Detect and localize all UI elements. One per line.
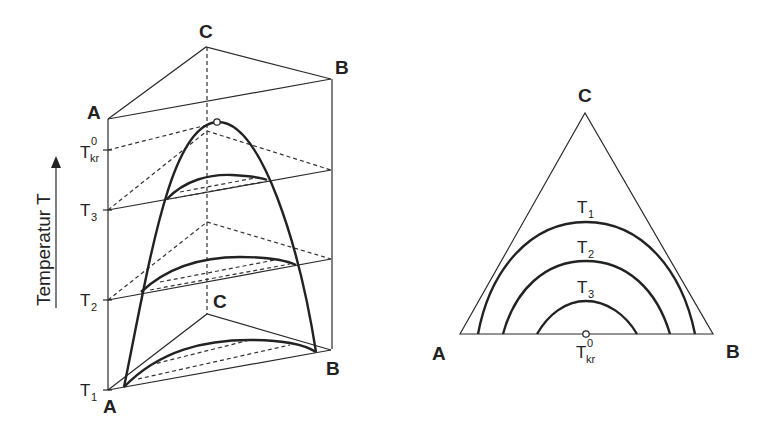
- ternary-a-label: A: [432, 343, 446, 364]
- prism-diagram: C B A C B A T 0 kr T 3 T 2 T 1 Temperatu…: [33, 21, 349, 417]
- svg-text:kr: kr: [586, 353, 596, 365]
- prism-top-ab-edge: [108, 79, 331, 119]
- isotherm-t2-curve: [503, 261, 670, 334]
- svg-text:3: 3: [588, 288, 594, 300]
- svg-text:0: 0: [91, 135, 97, 147]
- critical-point-label: T 0 kr: [576, 337, 596, 365]
- svg-text:T: T: [80, 143, 90, 162]
- t1-plane-ab: [108, 350, 331, 390]
- svg-text:0: 0: [587, 337, 593, 349]
- curve-label-t3: T 3: [577, 278, 594, 300]
- t2-tie-line-1: [160, 260, 275, 282]
- prism-bottom-b-label: B: [326, 358, 340, 379]
- svg-text:1: 1: [588, 208, 594, 220]
- figure-canvas: C B A C B A T 0 kr T 3 T 2 T 1 Temperatu…: [0, 0, 766, 427]
- t2-tie-line-2: [150, 264, 290, 290]
- svg-text:2: 2: [91, 301, 97, 313]
- level-label-t2: T 2: [80, 291, 97, 313]
- level-label-t3: T 3: [80, 201, 97, 223]
- critical-point-marker: [214, 119, 220, 125]
- curve-label-t1: T 1: [577, 198, 594, 220]
- svg-text:1: 1: [91, 391, 97, 403]
- ternary-c-label: C: [578, 85, 592, 106]
- svg-text:T: T: [577, 238, 587, 257]
- prism-top-c-label: C: [199, 21, 213, 42]
- prism-bottom-a-label: A: [103, 396, 117, 417]
- t1-tie-line-1: [150, 340, 250, 365]
- svg-text:T: T: [80, 291, 90, 310]
- svg-text:T: T: [80, 201, 90, 220]
- svg-text:2: 2: [588, 248, 594, 260]
- t3-plane-dashed: [108, 131, 331, 210]
- prism-bottom-c-label: C: [213, 291, 227, 312]
- prism-top-b-label: B: [335, 57, 349, 78]
- svg-text:T: T: [577, 278, 587, 297]
- isotherm-t3-curve: [537, 301, 637, 334]
- prism-top-a-label: A: [87, 102, 101, 123]
- svg-text:T: T: [576, 343, 586, 362]
- level-label-t1: T 1: [80, 381, 97, 403]
- svg-text:3: 3: [91, 211, 97, 223]
- temperature-axis-label: Temperatur T: [33, 193, 54, 306]
- ternary-diagram: C A B T 1 T 2 T 3 T 0 kr: [432, 85, 740, 365]
- svg-text:kr: kr: [90, 152, 100, 164]
- curve-label-t2: T 2: [577, 238, 594, 260]
- arrow-up-icon: [51, 156, 61, 168]
- svg-text:T: T: [577, 198, 587, 217]
- prism-top-edges: [108, 47, 331, 119]
- svg-text:T: T: [80, 381, 90, 400]
- ternary-b-label: B: [726, 341, 740, 362]
- level-label-tkr: T 0 kr: [80, 135, 100, 164]
